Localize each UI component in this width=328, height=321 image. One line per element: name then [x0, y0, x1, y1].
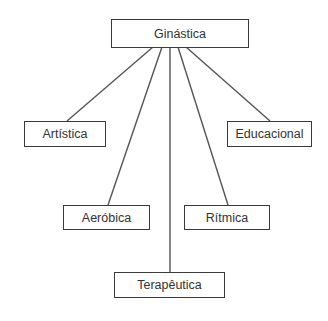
node-label: Aeróbica: [82, 211, 131, 225]
node-ginastica: Ginástica: [111, 19, 249, 48]
node-terapeutica: Terapêutica: [114, 272, 225, 298]
node-label: Artística: [42, 127, 87, 141]
node-ritmica: Rítmica: [184, 205, 270, 230]
node-label: Terapêutica: [137, 278, 202, 292]
link-aerobica: [108, 47, 162, 205]
node-label: Educacional: [235, 127, 303, 141]
node-educacional: Educacional: [227, 121, 312, 147]
node-artistica: Artística: [24, 121, 106, 147]
node-label: Ginástica: [154, 27, 206, 41]
node-label: Rítmica: [206, 211, 248, 225]
node-aerobica: Aeróbica: [63, 205, 150, 230]
link-ritmica: [178, 47, 228, 205]
